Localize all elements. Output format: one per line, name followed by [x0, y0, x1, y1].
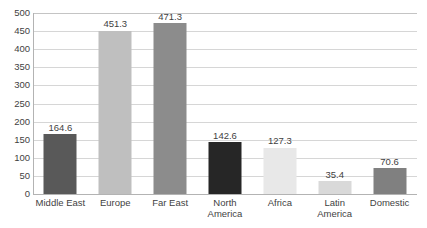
y-axis-tick-labels: 500 450 400 350 300 250 200 150 100 50 0 [0, 13, 30, 194]
y-axis-tick-label: 450 [2, 26, 30, 36]
y-axis-tick-label: 300 [2, 81, 30, 91]
x-axis-category-label: Africa [252, 197, 307, 208]
x-axis-category-label: Middle East [33, 197, 88, 208]
bar-group: 451.3 [88, 13, 143, 194]
bar-value-label: 471.3 [158, 12, 182, 22]
x-axis-line [33, 194, 417, 195]
bar[interactable] [318, 181, 351, 194]
y-axis-tick-label: 150 [2, 135, 30, 145]
bar-value-label: 70.6 [380, 157, 399, 167]
y-axis-tick-label: 400 [2, 44, 30, 54]
x-axis-category-label: Europe [88, 197, 143, 208]
y-axis-tick-label: 200 [2, 117, 30, 127]
x-axis-category-label: Far East [143, 197, 198, 208]
bar[interactable] [44, 134, 77, 194]
bar-group: 127.3 [252, 13, 307, 194]
bar[interactable] [99, 31, 132, 194]
bar-value-label: 35.4 [325, 170, 344, 180]
bar-group: 164.6 [33, 13, 88, 194]
bar-group: 471.3 [143, 13, 198, 194]
bar-group: 142.6 [198, 13, 253, 194]
bar[interactable] [373, 168, 406, 194]
bar[interactable] [263, 148, 296, 194]
y-axis-tick-label: 50 [2, 171, 30, 181]
bar-value-label: 142.6 [213, 131, 237, 141]
y-axis-tick-label: 0 [2, 189, 30, 199]
y-axis-tick-label: 350 [2, 63, 30, 73]
bar-chart: 500 450 400 350 300 250 200 150 100 50 0… [0, 0, 427, 228]
bar-value-label: 127.3 [268, 136, 292, 146]
bar-group: 35.4 [307, 13, 362, 194]
bars-layer: 164.6451.3471.3142.6127.335.470.6 [33, 13, 417, 194]
bar-group: 70.6 [362, 13, 417, 194]
bar-value-label: 451.3 [103, 19, 127, 29]
bar-value-label: 164.6 [49, 123, 73, 133]
x-axis-category-labels: Middle EastEuropeFar EastNorth AmericaAf… [33, 197, 417, 228]
bar[interactable] [154, 23, 187, 194]
x-axis-category-label: Domestic [362, 197, 417, 208]
x-axis-category-label: North America [198, 197, 253, 219]
y-axis-tick-label: 100 [2, 153, 30, 163]
y-axis-tick-label: 500 [2, 8, 30, 18]
y-axis-tick-label: 250 [2, 99, 30, 109]
x-axis-category-label: Latin America [307, 197, 362, 219]
bar[interactable] [208, 142, 241, 194]
